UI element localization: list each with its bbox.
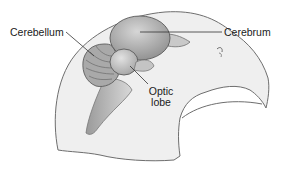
- optic-lobe-shape: [110, 49, 138, 75]
- label-cerebrum: Cerebrum: [224, 27, 271, 38]
- label-cerebellum: Cerebellum: [10, 27, 64, 38]
- label-optic-lobe-line2: lobe: [145, 97, 177, 108]
